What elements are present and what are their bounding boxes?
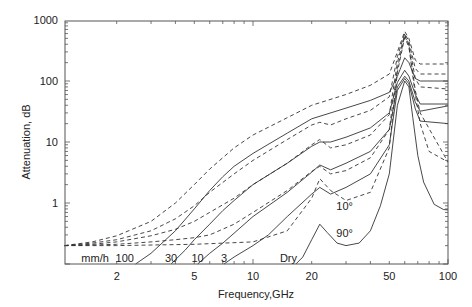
y-tick-label: 1000: [34, 14, 58, 26]
curve-annotation: 100: [116, 252, 134, 264]
curve-1: [136, 58, 448, 264]
y-tick-label: 1: [52, 197, 58, 209]
x-tick-labels: 25102050100: [114, 270, 458, 282]
curve-annotation: Dry: [280, 252, 298, 264]
curve-annotation: 10°: [336, 200, 353, 212]
axis-ticks: [65, 21, 448, 264]
curve-3: [171, 70, 448, 264]
x-tick-label: 100: [439, 270, 457, 282]
y-tick-label: 100: [40, 75, 58, 87]
x-axis-title: Frequency,GHz: [218, 288, 294, 300]
y-axis-title: Attenuation, dB: [20, 104, 32, 179]
curve-annotation: 10: [191, 252, 203, 264]
x-tick-label: 20: [306, 270, 318, 282]
x-tick-label: 10: [247, 270, 259, 282]
curve-annotation: 3: [221, 252, 227, 264]
plot-frame: [65, 21, 448, 264]
attenuation-curves: [65, 31, 449, 264]
x-tick-label: 50: [383, 270, 395, 282]
y-tick-label: 10: [46, 136, 58, 148]
curve-annotation: 90°: [336, 227, 353, 239]
curve-annotation: mm/h: [81, 252, 109, 264]
attenuation-chart: 25102050100 1101001000 mm/h10030103Dry10…: [0, 0, 472, 307]
curve-annotations: mm/h10030103Dry10°90°: [81, 200, 353, 264]
curve-9: [296, 81, 448, 264]
y-tick-labels: 1101001000: [34, 14, 58, 209]
x-tick-label: 5: [191, 270, 197, 282]
curve-5: [198, 76, 448, 264]
x-tick-label: 2: [114, 270, 120, 282]
curve-annotation: 30: [165, 252, 177, 264]
